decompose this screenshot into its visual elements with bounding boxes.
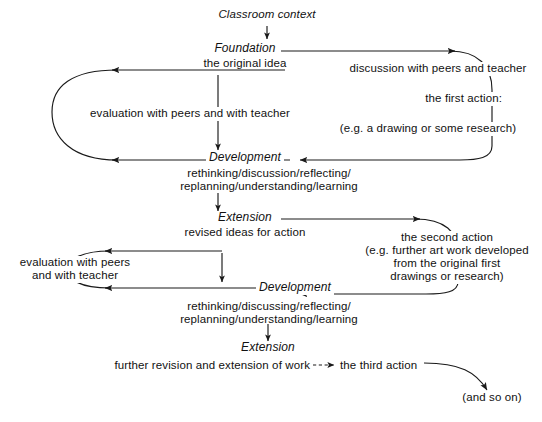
node-foundation-subtitle: the original idea bbox=[203, 57, 286, 71]
node-development-2-sub-line1: rethinking/discussing/reflecting/ bbox=[187, 300, 351, 314]
label-second-action-line4: drawings or research) bbox=[387, 270, 507, 284]
label-second-action-line1: the second action bbox=[398, 231, 496, 245]
node-foundation: Foundation bbox=[211, 42, 278, 56]
label-and-so-on: (and so on) bbox=[462, 391, 521, 405]
node-extension-2: Extension bbox=[241, 341, 295, 355]
label-evaluation-bottom-line1: evaluation with peers bbox=[17, 256, 133, 270]
label-evaluation-bottom-line2: and with teacher bbox=[29, 269, 121, 283]
diagram-canvas: Classroom context Foundation the origina… bbox=[0, 0, 542, 422]
label-first-action: the first action: bbox=[422, 92, 505, 106]
label-evaluation-top: evaluation with peers and with teacher bbox=[87, 107, 293, 121]
node-development-1-sub-line1: rethinking/discussion/reflecting/ bbox=[187, 167, 351, 181]
label-third-action: the third action bbox=[340, 359, 417, 373]
label-second-action-line3: from the original first bbox=[391, 257, 504, 271]
node-extension-2-subtitle: further revision and extension of work bbox=[115, 359, 311, 373]
node-classroom-context: Classroom context bbox=[218, 8, 315, 22]
label-second-action-line2: (e.g. further art work developed bbox=[362, 244, 531, 258]
edge-third-action-to-and-so-on bbox=[424, 363, 487, 390]
label-first-action-example: (e.g. a drawing or some research) bbox=[337, 122, 519, 136]
node-development-1: Development bbox=[206, 151, 284, 165]
node-development-1-sub-line2: replanning/understanding/learning bbox=[180, 180, 358, 194]
node-extension-1: Extension bbox=[215, 211, 275, 225]
label-discussion-top: discussion with peers and teacher bbox=[346, 62, 529, 76]
node-extension-1-subtitle: revised ideas for action bbox=[184, 226, 305, 240]
node-development-2-sub-line2: replanning/understanding/learning bbox=[180, 313, 358, 327]
node-development-2: Development bbox=[256, 281, 334, 295]
